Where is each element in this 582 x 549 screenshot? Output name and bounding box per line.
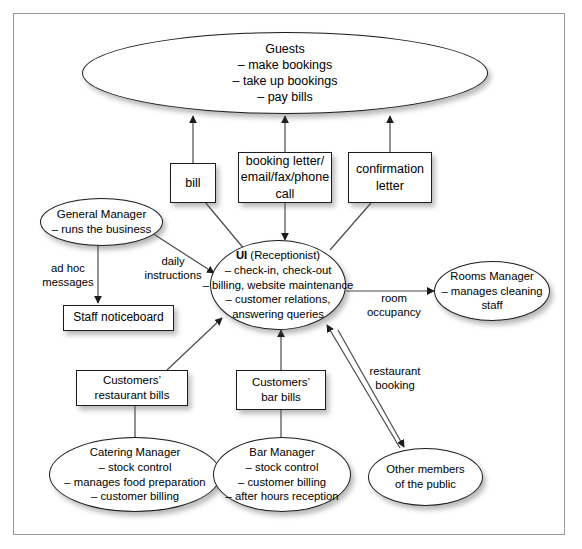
node-general-manager-line-1: – runs the business bbox=[52, 222, 152, 237]
node-guests-line-1: – make bookings bbox=[238, 57, 333, 73]
node-catering-manager-line-3: – customer billing bbox=[91, 489, 179, 504]
edge-label-restaurant-booking: restaurant booking bbox=[352, 364, 438, 393]
node-bar-manager[interactable]: Bar Manager – stock control – customer b… bbox=[213, 437, 351, 512]
node-catering-manager-line-0: Catering Manager bbox=[90, 445, 180, 460]
node-customers-bar-bills[interactable]: Customers’ bar bills bbox=[236, 370, 326, 410]
node-rooms-manager-line-2: staff bbox=[481, 298, 502, 313]
node-bar-manager-line-3: – after hours reception bbox=[225, 489, 338, 504]
node-other-public-line-0: Other members bbox=[386, 462, 464, 477]
edge-label-daily-instructions: daily instructions bbox=[131, 254, 215, 283]
node-customers-restaurant-bills[interactable]: Customers’ restaurant bills bbox=[76, 370, 188, 406]
node-guests-line-0: Guests bbox=[265, 41, 305, 57]
node-guests[interactable]: Guests – make bookings – take up booking… bbox=[82, 32, 488, 114]
node-bill[interactable]: bill bbox=[170, 163, 216, 203]
node-ui-receptionist-title: UI (Receptionist) bbox=[236, 248, 320, 263]
node-general-manager-line-0: General Manager bbox=[57, 207, 147, 222]
node-other-public[interactable]: Other members of the public bbox=[368, 448, 483, 506]
node-guests-line-3: – pay bills bbox=[257, 89, 313, 105]
node-ui-receptionist-line-3: answering queries bbox=[232, 307, 324, 322]
edge-label-ad-hoc-messages: ad hoc messages bbox=[28, 261, 108, 290]
node-ui-receptionist-line-0: – check-in, check-out bbox=[225, 263, 332, 278]
node-catering-manager[interactable]: Catering Manager – stock control – manag… bbox=[49, 437, 221, 512]
node-ui-receptionist-line-2: – customer relations, bbox=[226, 292, 331, 307]
node-booking-letter-line-1: email/fax/phone bbox=[241, 169, 329, 185]
node-bar-manager-line-0: Bar Manager bbox=[249, 445, 314, 460]
node-ui-receptionist-line-1: – billing, website maintenance bbox=[203, 278, 354, 293]
node-general-manager[interactable]: General Manager – runs the business bbox=[40, 198, 163, 246]
node-rooms-manager[interactable]: Rooms Manager – manages cleaning staff bbox=[434, 261, 550, 321]
node-bill-line-0: bill bbox=[185, 175, 200, 191]
node-ui-receptionist[interactable]: UI (Receptionist) – check-in, check-out … bbox=[210, 240, 346, 330]
edge-label-room-occupancy: room occupancy bbox=[355, 291, 433, 320]
node-customers-restaurant-bills-line-1: restaurant bills bbox=[95, 388, 170, 403]
node-rooms-manager-line-1: – manages cleaning bbox=[441, 284, 542, 299]
node-booking-letter-line-2: call bbox=[276, 186, 295, 202]
node-customers-restaurant-bills-line-0: Customers’ bbox=[103, 373, 161, 388]
node-catering-manager-line-1: – stock control bbox=[99, 460, 172, 475]
node-bar-manager-line-2: – customer billing bbox=[238, 475, 326, 490]
node-other-public-line-1: of the public bbox=[395, 477, 456, 492]
node-confirmation-letter-line-1: letter bbox=[376, 178, 404, 194]
node-customers-bar-bills-line-0: Customers’ bbox=[252, 375, 310, 390]
node-staff-noticeboard[interactable]: Staff noticeboard bbox=[63, 305, 174, 331]
node-bar-manager-line-1: – stock control bbox=[246, 460, 319, 475]
node-staff-noticeboard-line-0: Staff noticeboard bbox=[73, 310, 164, 326]
node-ui-receptionist-title-rest: (Receptionist) bbox=[247, 249, 320, 261]
node-booking-letter-line-0: booking letter/ bbox=[246, 153, 325, 169]
node-rooms-manager-line-0: Rooms Manager bbox=[450, 269, 534, 284]
node-confirmation-letter-line-0: confirmation bbox=[356, 161, 424, 177]
node-guests-line-2: – take up bookings bbox=[233, 73, 338, 89]
node-customers-bar-bills-line-1: bar bills bbox=[261, 390, 301, 405]
node-booking-letter[interactable]: booking letter/ email/fax/phone call bbox=[238, 152, 332, 203]
node-confirmation-letter[interactable]: confirmation letter bbox=[348, 152, 432, 203]
diagram-canvas: Guests – make bookings – take up booking… bbox=[0, 0, 582, 549]
node-catering-manager-line-2: – manages food preparation bbox=[64, 475, 205, 490]
node-ui-receptionist-title-bold: UI bbox=[236, 249, 247, 261]
